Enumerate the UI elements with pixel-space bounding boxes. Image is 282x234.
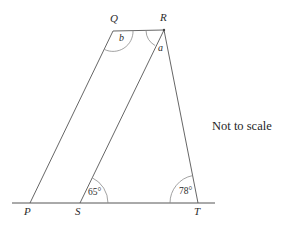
angle-label-65: 65° [88, 188, 101, 198]
angle-arc-a [146, 30, 155, 45]
angle-label-b: b [119, 33, 124, 43]
vertex-label-S: S [75, 206, 81, 217]
vertex-label-R: R [160, 12, 167, 23]
segment-RT [164, 30, 198, 203]
not-to-scale-note: Not to scale [212, 120, 272, 133]
segment-SR [80, 30, 164, 203]
vertex-label-P: P [24, 206, 31, 217]
segment-PQ [30, 31, 113, 203]
angle-label-78: 78° [179, 187, 192, 197]
vertex-label-Q: Q [110, 13, 118, 24]
segment-QR [113, 30, 164, 31]
diagram-page: P S T Q R b a 65° 78° Not to scale [0, 0, 282, 234]
geometry-figure [0, 0, 282, 234]
angle-label-a: a [158, 43, 163, 53]
vertex-label-T: T [194, 206, 200, 217]
vertex-dot-R [163, 29, 165, 31]
